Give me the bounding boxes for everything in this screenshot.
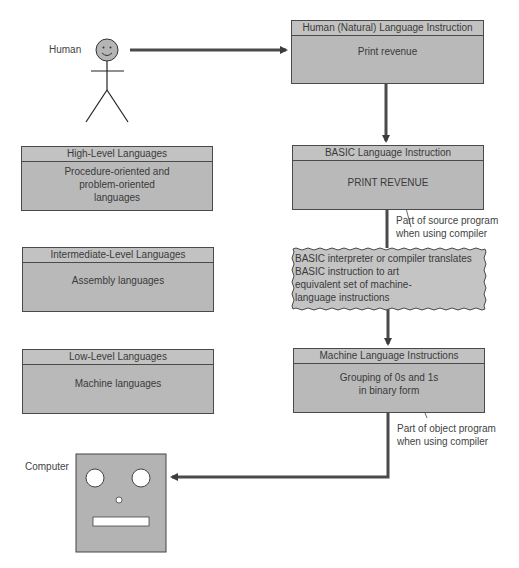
human-figure-icon: [86, 39, 128, 122]
low-level-title: Low-Level Languages: [23, 350, 213, 365]
object-program-note: Part of object program when using compil…: [397, 422, 496, 448]
machine-body-line: in binary form: [294, 384, 484, 397]
high-level-line: problem-oriented: [22, 178, 212, 191]
translate-line: BASIC instruction to art: [295, 265, 472, 278]
human-label: Human: [49, 43, 81, 56]
translate-text: BASIC interpreter or compiler translates…: [295, 252, 472, 304]
natural-language-body: Print revenue: [292, 36, 483, 58]
basic-language-body: PRINT REVENUE: [293, 161, 483, 189]
translate-line: language instructions: [295, 291, 472, 304]
computer-label: Computer: [25, 460, 69, 473]
object-note-line: when using compiler: [397, 435, 496, 448]
computer-face-icon: [76, 454, 166, 552]
low-level-box: Low-Level Languages Machine languages: [22, 349, 214, 414]
basic-language-box: BASIC Language Instruction PRINT REVENUE: [292, 145, 484, 210]
high-level-body: Procedure-oriented and problem-oriented …: [22, 162, 212, 204]
machine-body-line: Grouping of 0s and 1s: [294, 371, 484, 384]
source-note-line: Part of source program: [396, 214, 498, 227]
high-level-title: High-Level Languages: [22, 147, 212, 162]
intermediate-level-body: Assembly languages: [23, 263, 213, 287]
machine-language-box: Machine Language Instructions Grouping o…: [293, 348, 485, 413]
source-program-note: Part of source program when using compil…: [396, 214, 498, 240]
low-level-body: Machine languages: [23, 365, 213, 390]
high-level-box: High-Level Languages Procedure-oriented …: [21, 146, 213, 211]
natural-language-title: Human (Natural) Language Instruction: [292, 21, 483, 36]
intermediate-level-title: Intermediate-Level Languages: [23, 248, 213, 263]
intermediate-level-box: Intermediate-Level Languages Assembly la…: [22, 247, 214, 312]
intermediate-level-line: Assembly languages: [23, 274, 213, 287]
machine-language-body: Grouping of 0s and 1s in binary form: [294, 364, 484, 397]
machine-language-title: Machine Language Instructions: [294, 349, 484, 364]
natural-language-box: Human (Natural) Language Instruction Pri…: [291, 20, 484, 84]
translate-line: equivalent set of machine-: [295, 278, 472, 291]
source-note-line: when using compiler: [396, 227, 498, 240]
high-level-line: languages: [22, 191, 212, 204]
basic-language-title: BASIC Language Instruction: [293, 146, 483, 161]
translate-line: BASIC interpreter or compiler translates: [295, 252, 472, 265]
high-level-line: Procedure-oriented and: [22, 165, 212, 178]
arrow-machine-to-computer: [172, 412, 388, 477]
object-note-line: Part of object program: [397, 422, 496, 435]
low-level-line: Machine languages: [23, 377, 213, 390]
